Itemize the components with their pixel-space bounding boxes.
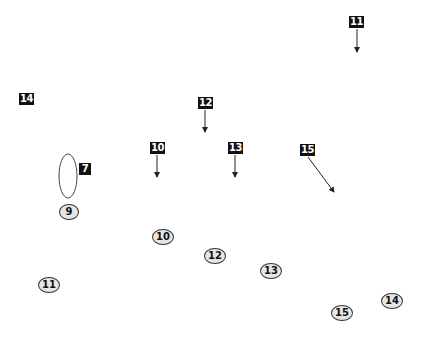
circle-label-12: 12 — [204, 248, 226, 264]
square-label-10: 10 — [150, 142, 165, 154]
square-label-14: 14 — [19, 93, 34, 105]
outline-ellipse — [59, 154, 77, 198]
circle-label-13: 13 — [260, 263, 282, 279]
circle-label-14: 14 — [381, 293, 403, 309]
arrows-layer — [0, 0, 423, 337]
circle-label-10: 10 — [152, 229, 174, 245]
circle-label-9: 9 — [59, 204, 79, 220]
square-label-15: 15 — [300, 144, 315, 156]
arrow-15 — [308, 157, 334, 192]
diagram-canvas: 11141210131579101213111415 — [0, 0, 423, 337]
square-label-12: 12 — [198, 97, 213, 109]
circle-label-11: 11 — [38, 277, 60, 293]
square-label-11: 11 — [349, 16, 364, 28]
square-label-13: 13 — [228, 142, 243, 154]
circle-label-15: 15 — [331, 305, 353, 321]
square-label-7: 7 — [79, 163, 91, 175]
